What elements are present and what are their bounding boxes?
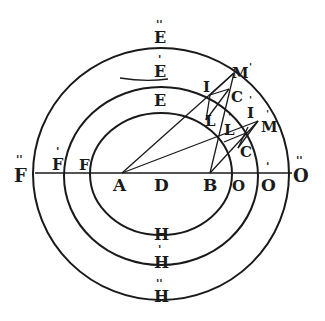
label-L: L (205, 112, 216, 130)
line-A-to-M (122, 121, 258, 173)
label-B: B (203, 175, 217, 195)
label-M-prime: M (232, 64, 249, 82)
prime-mark: ' (56, 145, 59, 158)
prime-mark: ' (158, 53, 161, 66)
label-H-prime: H (154, 253, 169, 272)
prime-mark: '' (156, 18, 163, 31)
prime-mark: ' (249, 61, 252, 72)
label-C-lower: C (240, 143, 252, 161)
prime-mark: '' (296, 154, 303, 167)
inner-ellipse (90, 113, 232, 235)
prime-mark: ' (158, 243, 161, 256)
prime-mark: '' (16, 153, 23, 166)
label-E: E (154, 91, 166, 110)
label-I-prime: I (247, 104, 254, 122)
label-I: I (203, 78, 210, 96)
label-F: F (79, 156, 90, 174)
label-C: C (231, 88, 243, 106)
prime-mark: ' (249, 94, 252, 105)
label-D: D (154, 175, 169, 195)
bottom-labels: H H ' H '' (154, 225, 169, 306)
label-L-prime: L (224, 121, 235, 139)
construction-labels: M ' I C L L ' I ' M ' C (203, 61, 278, 161)
top-labels: E '' E ' E (154, 18, 166, 110)
geometric-diagram: F '' F ' F A D B O O ' O '' E '' E ' E H… (0, 0, 325, 321)
prime-mark: ' (228, 111, 231, 122)
label-O: O (232, 177, 245, 195)
label-M: M (261, 118, 278, 136)
prime-mark: ' (266, 108, 269, 119)
prime-mark: ' (266, 160, 269, 173)
prime-mark: '' (156, 277, 163, 290)
label-F-double-prime: F (14, 165, 27, 186)
label-O-prime: O (261, 175, 276, 195)
label-O-double-prime: O (293, 165, 309, 186)
axis-labels: F '' F ' F A D B O O ' O '' (14, 145, 309, 195)
label-A: A (112, 175, 127, 195)
label-H: H (154, 225, 169, 244)
